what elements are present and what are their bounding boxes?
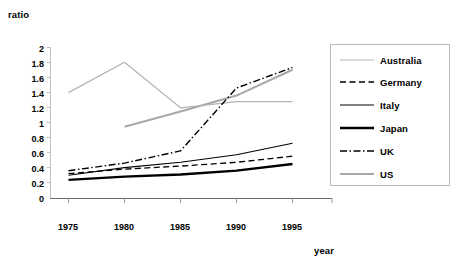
- legend-item-uk: UK: [331, 140, 451, 162]
- line-chart: ratio year 2 1.8 1.6 1.4 1.2 1 0.8 0.6 0…: [0, 0, 459, 269]
- legend-label-germany: Germany: [380, 77, 422, 88]
- legend-item-germany: Germany: [331, 71, 451, 93]
- legend-swatch-germany: [339, 76, 375, 88]
- series-line-uk: [69, 68, 293, 171]
- legend-swatch-italy: [339, 99, 375, 111]
- legend-swatch-japan: [339, 122, 375, 134]
- legend-label-uk: UK: [380, 146, 394, 157]
- chart-legend: Australia Germany Italy Japan UK: [330, 44, 450, 186]
- legend-swatch-uk: [339, 145, 375, 157]
- legend-swatch-us: [339, 168, 375, 180]
- legend-item-us: US: [331, 163, 451, 185]
- legend-label-australia: Australia: [380, 55, 422, 66]
- x-tick-marks: [69, 199, 333, 204]
- legend-swatch-australia: [339, 54, 375, 66]
- legend-label-us: US: [380, 169, 393, 180]
- legend-item-italy: Italy: [331, 94, 451, 116]
- series-line-germany: [69, 156, 293, 174]
- y-tick-marks: [47, 48, 51, 183]
- legend-item-australia: Australia: [331, 49, 451, 71]
- legend-label-japan: Japan: [380, 123, 408, 134]
- legend-label-italy: Italy: [380, 100, 400, 111]
- legend-item-japan: Japan: [331, 117, 451, 139]
- series-line-us: [125, 70, 293, 127]
